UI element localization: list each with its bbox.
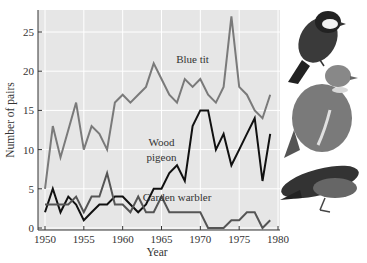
y-tick-label: 10 — [23, 144, 35, 156]
x-tick-label: 1965 — [151, 233, 174, 245]
x-tick-label: 1955 — [73, 233, 96, 245]
annotation-label: Garden warbler — [143, 191, 212, 203]
x-tick-label: 1970 — [189, 233, 212, 245]
y-tick-label: 15 — [23, 104, 35, 116]
y-tick-label: 20 — [23, 65, 35, 77]
annotation-label: Wood — [148, 136, 175, 148]
annotation-label: Blue tit — [176, 53, 209, 65]
x-tick-label: 1960 — [112, 233, 135, 245]
garden-warbler-image — [280, 159, 362, 212]
x-tick-label: 1950 — [34, 233, 57, 245]
bird-illustrations — [280, 0, 367, 263]
annotation-label: pigeon — [147, 151, 177, 163]
y-axis-label: Number of pairs — [4, 82, 17, 158]
x-axis-label: Year — [146, 246, 167, 258]
y-tick-label: 5 — [29, 183, 35, 195]
y-tick-label: 25 — [23, 26, 35, 38]
x-tick-label: 1975 — [228, 233, 251, 245]
